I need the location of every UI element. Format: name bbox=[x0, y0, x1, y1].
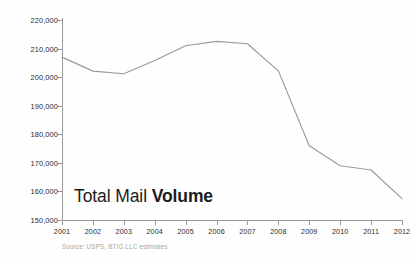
chart-container: 220,000210,000200,000190,000180,000170,0… bbox=[0, 0, 415, 263]
y-axis-label: 200,000 bbox=[31, 73, 58, 82]
y-axis-label: 160,000 bbox=[31, 187, 58, 196]
x-axis-label: 2012 bbox=[394, 227, 410, 236]
x-axis-tick bbox=[217, 220, 218, 225]
x-axis-tick bbox=[186, 220, 187, 225]
source-note: Source: USPS, BTIG LLC estimates bbox=[62, 243, 168, 250]
x-axis-label: 2002 bbox=[85, 227, 101, 236]
x-axis-tick bbox=[340, 220, 341, 225]
y-axis-label: 170,000 bbox=[31, 158, 58, 167]
x-axis-label: 2011 bbox=[363, 227, 379, 236]
x-axis-label: 2007 bbox=[239, 227, 255, 236]
y-axis-label: 220,000 bbox=[31, 16, 58, 25]
x-axis-label: 2004 bbox=[147, 227, 163, 236]
x-axis-tick bbox=[62, 220, 63, 225]
x-axis-tick bbox=[93, 220, 94, 225]
x-axis-label: 2005 bbox=[177, 227, 193, 236]
x-axis-tick bbox=[247, 220, 248, 225]
chart-title: Total Mail Volume bbox=[74, 186, 213, 207]
x-axis-label: 2006 bbox=[208, 227, 224, 236]
y-axis-label: 210,000 bbox=[31, 44, 58, 53]
y-axis-label: 150,000 bbox=[31, 216, 58, 225]
x-axis-tick bbox=[309, 220, 310, 225]
x-axis-tick bbox=[278, 220, 279, 225]
x-axis-tick bbox=[371, 220, 372, 225]
y-axis-label: 190,000 bbox=[31, 101, 58, 110]
x-axis-line bbox=[62, 220, 402, 221]
x-axis-label: 2008 bbox=[270, 227, 286, 236]
x-axis-label: 2010 bbox=[332, 227, 348, 236]
x-axis-label: 2009 bbox=[301, 227, 317, 236]
x-axis-tick bbox=[124, 220, 125, 225]
chart-title-light: Total Mail bbox=[74, 186, 152, 206]
series-polyline bbox=[62, 41, 402, 198]
x-axis-label: 2001 bbox=[54, 227, 70, 236]
y-axis-label: 180,000 bbox=[31, 130, 58, 139]
chart-title-bold: Volume bbox=[152, 186, 213, 206]
x-axis-tick bbox=[402, 220, 403, 225]
x-axis-tick bbox=[155, 220, 156, 225]
x-axis-label: 2003 bbox=[116, 227, 132, 236]
